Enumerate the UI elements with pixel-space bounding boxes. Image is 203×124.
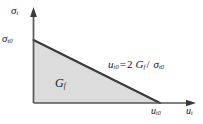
traction-separation-figure: σt σt0 Gf ut0=2 Gf/ σt0 ut0 ut [0,0,203,124]
y-axis-arrowhead-icon [30,7,37,17]
peak-stress-subscript: t0 [8,37,13,44]
equation-equals-sign: = [119,58,127,70]
y-axis-subscript: t [17,9,19,16]
ultimate-displacement-subscript: t0 [156,110,161,116]
equation-annotation: ut0=2 Gf/ σt0 [108,59,164,71]
equation-coefficient: 2 [127,58,133,70]
y-axis-label: σt [11,5,18,17]
ultimate-displacement-label: ut0 [151,106,161,116]
equation-numerator-symbol: G [136,58,144,70]
peak-stress-label: σt0 [2,33,13,45]
figure-canvas [0,0,203,124]
equation-divider-sign: / [145,58,150,70]
equation-denominator-subscript: t0 [159,63,164,70]
fracture-energy-label: Gf [55,77,66,90]
fracture-energy-symbol: G [55,76,64,90]
x-axis-subscript: t [191,110,193,116]
x-axis-label: ut [186,106,193,116]
fracture-energy-subscript: f [64,82,66,90]
equation-lhs-subscript: t0 [114,63,119,70]
